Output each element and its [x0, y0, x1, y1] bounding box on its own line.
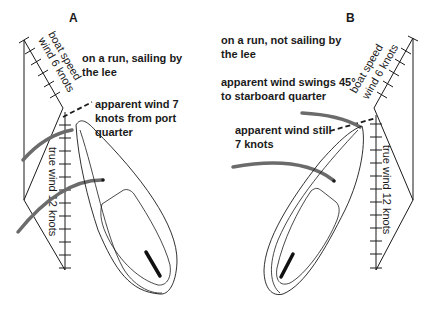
- panel-b-apparent-line1: apparent wind still: [235, 124, 332, 136]
- panel-a-caption-line2: the lee: [82, 66, 117, 78]
- panel-a-cockpit: [101, 190, 171, 286]
- panel-a-sail-arc-lower: [18, 180, 102, 232]
- panel-a: A: [18, 11, 183, 294]
- panel-b-true-wind-label: true wind 12 knots: [381, 145, 393, 235]
- panel-a-apparent-line1: apparent wind 7: [95, 98, 179, 110]
- diagram-canvas: A: [0, 0, 434, 309]
- panel-a-sail-clew-dot: [101, 178, 105, 182]
- panel-b-swing-line1: apparent wind swings 45°: [221, 76, 356, 88]
- panel-b-sail-arc-lower: [233, 163, 333, 180]
- panel-b-apparent-line2: 7 knots: [235, 138, 274, 150]
- panel-b: B: [221, 11, 418, 295]
- panel-b-swing-line2: to starboard quarter: [221, 90, 327, 102]
- panel-a-hull-outer: [76, 121, 177, 294]
- panel-a-apparent-line2: knots from port: [95, 112, 177, 124]
- sailing-wind-diagram: A: [0, 0, 434, 309]
- panel-a-apparent-wind-dashed: [63, 102, 92, 117]
- panel-a-letter: A: [69, 11, 78, 25]
- panel-a-true-wind-label: true wind 12 knots: [47, 147, 59, 237]
- panel-b-letter: B: [346, 11, 355, 25]
- panel-b-tiller: [281, 254, 293, 277]
- panel-b-caption-line1: on a run, not sailing by: [221, 34, 342, 46]
- panel-a-tiller: [146, 252, 160, 276]
- panel-a-apparent-line3: quarter: [95, 126, 134, 138]
- panel-b-hull-outer: [264, 126, 363, 295]
- panel-a-caption-line1: on a run, sailing by: [82, 52, 183, 64]
- panel-b-caption-line2: the lee: [221, 48, 256, 60]
- panel-b-sail-clew-dot: [332, 179, 336, 183]
